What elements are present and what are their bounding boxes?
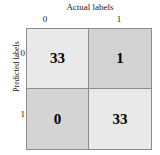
matrix-cell-value: 0 [54, 111, 62, 128]
matrix-cell-1-1: 33 [89, 89, 151, 149]
x-tick-label-0: 0 [38, 13, 52, 25]
matrix-cell-value: 1 [116, 50, 124, 67]
x-tick-label-1: 1 [112, 13, 126, 25]
matrix-cell-0-1: 1 [89, 29, 151, 89]
confusion-matrix-grid: 33 1 0 33 [26, 28, 152, 150]
matrix-cell-value: 33 [50, 50, 65, 67]
matrix-cell-0-0: 33 [27, 29, 89, 89]
y-tick-label-1: 1 [15, 108, 25, 120]
confusion-matrix-figure: Actual labels 0 1 Predicted labels 0 1 3… [0, 0, 160, 155]
y-axis-title: Predicted labels [12, 25, 21, 109]
matrix-cell-value: 33 [113, 111, 128, 128]
y-tick-label-0: 0 [15, 47, 25, 59]
matrix-cell-1-0: 0 [27, 89, 89, 149]
x-axis-title: Actual labels [52, 2, 128, 13]
